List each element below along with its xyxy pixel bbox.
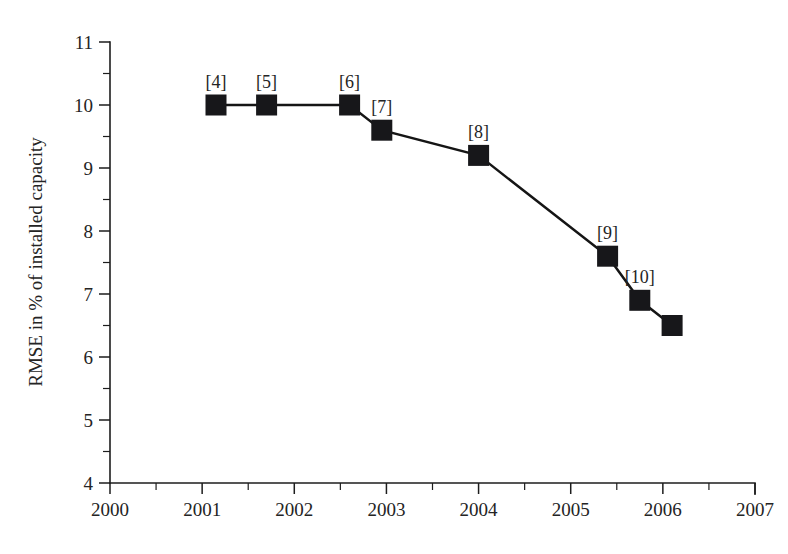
chart-figure: 4567891011 20002001200220032004200520062… (0, 0, 788, 554)
data-point-label: [5] (256, 72, 277, 92)
data-point-marker (339, 95, 360, 116)
chart-background (0, 0, 788, 554)
x-tick-label: 2001 (183, 499, 221, 520)
data-point-marker (371, 120, 392, 141)
x-tick-label: 2007 (736, 499, 774, 520)
y-tick-label: 5 (84, 410, 94, 431)
y-tick-label: 10 (74, 95, 93, 116)
data-point-label: [7] (371, 97, 392, 117)
y-axis-title: RMSE in % of installed capacity (25, 137, 46, 387)
data-point-marker (256, 95, 277, 116)
data-point-label: [6] (339, 72, 360, 92)
x-tick-label: 2004 (460, 499, 499, 520)
y-tick-label: 4 (84, 473, 94, 494)
x-tick-label: 2005 (552, 499, 590, 520)
data-point-marker (597, 246, 618, 267)
y-tick-label: 6 (84, 347, 94, 368)
data-point-label: [9] (597, 223, 618, 243)
x-tick-label: 2003 (367, 499, 405, 520)
y-tick-label: 9 (84, 158, 94, 179)
x-tick-label: 2000 (91, 499, 129, 520)
y-tick-label: 11 (75, 32, 93, 53)
data-point-label: [10] (625, 267, 655, 287)
x-tick-label: 2006 (644, 499, 682, 520)
data-point-label: [4] (206, 72, 227, 92)
data-point-marker (206, 95, 227, 116)
x-tick-label: 2002 (275, 499, 313, 520)
data-point-marker (662, 315, 683, 336)
data-point-marker (468, 145, 489, 166)
y-tick-label: 8 (84, 221, 94, 242)
data-point-marker (629, 290, 650, 311)
y-tick-label: 7 (84, 284, 94, 305)
rmse-line-chart: 4567891011 20002001200220032004200520062… (0, 0, 788, 554)
data-point-label: [8] (468, 122, 489, 142)
